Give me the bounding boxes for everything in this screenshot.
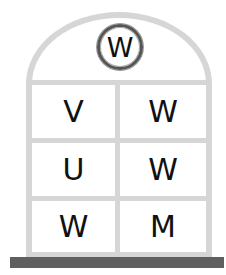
cell-r3-c1: W	[32, 201, 115, 252]
cell-r1-c1: V	[32, 85, 115, 138]
cell-r3-c2: M	[120, 201, 206, 252]
emblem-letter: W	[107, 34, 134, 61]
cell-r2-c1: U	[32, 143, 115, 196]
cell-r2-c2: W	[120, 143, 206, 196]
cell-r1-c2: W	[120, 85, 206, 138]
circle-emblem: W	[97, 24, 143, 70]
window-sill	[10, 257, 224, 268]
